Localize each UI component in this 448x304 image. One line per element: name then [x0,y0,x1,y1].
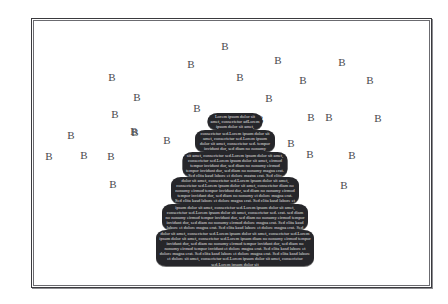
pyramid-tier-text: Lorem ipsum dolor sit amet, consectetur … [208,113,263,130]
pyramid-tier: consectetur sed.Lorem ipsum dolor sit am… [195,130,275,152]
scatter-label: B [338,57,345,68]
scatter-label: B [374,113,381,124]
pyramid-tier: ipsum dolor sit amet, consectetur sed.Lo… [162,204,308,230]
scatter-label: B [187,59,194,70]
pyramid-tier-text: consectetur sed.Lorem ipsum dolor sit am… [195,130,275,152]
pyramid-tier-text: dolor sit amet, consectetur sed.Lorem ip… [171,177,299,204]
scatter-label: B [256,114,263,125]
scatter-label: B [221,41,228,52]
scatter-label: B [236,72,243,83]
scatter-label: B [109,179,116,190]
scatter-label: B [299,75,306,86]
pyramid-tier: Lorem ipsum dolor sit amet, consectetur … [208,113,263,130]
scatter-label: B [307,112,314,123]
scatter-label: B [274,55,281,66]
scatter-label: B [107,151,114,162]
scatter-label: B [265,93,272,104]
pyramid-tier: dolor sit amet, consectetur sed.Lorem ip… [171,177,299,204]
scatter-label: B [306,149,313,160]
pyramid-chart: Lorem ipsum dolor sit amet, consectetur … [32,19,433,289]
scatter-label: B [340,180,347,191]
figure-canvas: BBBBBBBBBBBBBBBBBBBBBBBBBBBB Lorem ipsum… [0,0,448,304]
scatter-label: B [67,130,74,141]
scatter-label: B [348,150,355,161]
pyramid-tier-text: sit amet, consectetur sed.Lorem ipsum do… [183,152,288,177]
pyramid-tier-text: dolor sit amet, consectetur sed.Lorem ip… [156,230,314,266]
pyramid-tier-text: ipsum dolor sit amet, consectetur sed.Lo… [162,204,308,230]
pyramid-tier: dolor sit amet, consectetur sed.Lorem ip… [156,230,314,266]
scatter-label: B [45,151,52,162]
scatter-label: B [163,135,170,146]
scatter-label: B [193,103,200,114]
pyramid-tier: sit amet, consectetur sed.Lorem ipsum do… [183,152,288,177]
plot-area: BBBBBBBBBBBBBBBBBBBBBBBBBBBB Lorem ipsum… [32,19,433,289]
scatter-label: B [366,75,373,86]
figure-frame: BBBBBBBBBBBBBBBBBBBBBBBBBBBB Lorem ipsum… [31,18,432,288]
scatter-label: B [131,127,138,138]
scatter-label: B [80,150,87,161]
scatter-label: B [287,138,294,149]
scatter-label: B [325,112,332,123]
scatter-label: B [108,72,115,83]
scatter-label: B [133,92,140,103]
scatter-label: B [111,109,118,120]
